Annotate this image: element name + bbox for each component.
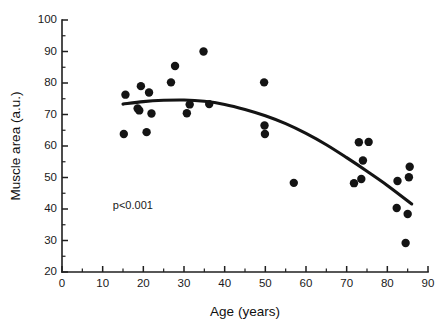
- y-tick-label: 20: [44, 265, 57, 277]
- data-point: [167, 78, 175, 86]
- data-point: [147, 109, 155, 117]
- plot-canvas: 2030405060708090100 0102030405060708090 …: [0, 0, 445, 326]
- data-point: [171, 62, 179, 70]
- x-tick-label: 60: [300, 277, 313, 289]
- x-tick-label: 50: [259, 277, 272, 289]
- p-value-annotation: p<0.001: [113, 199, 153, 211]
- data-point: [261, 130, 269, 138]
- x-tick-label: 90: [422, 277, 435, 289]
- data-point: [359, 156, 367, 164]
- x-tick-label: 20: [137, 277, 150, 289]
- data-point: [406, 163, 414, 171]
- data-point: [137, 82, 145, 90]
- data-point: [405, 173, 413, 181]
- y-tick-label: 80: [44, 76, 57, 88]
- y-tick-label: 70: [44, 108, 57, 120]
- data-point: [364, 138, 372, 146]
- x-axis-title: Age (years): [210, 304, 280, 319]
- x-tick-label: 40: [218, 277, 231, 289]
- y-axis-major-ticks: [62, 20, 68, 272]
- x-tick-label: 30: [178, 277, 191, 289]
- x-axis-tick-labels: 0102030405060708090: [59, 277, 435, 289]
- x-axis-group: 0102030405060708090: [59, 266, 435, 289]
- data-point: [357, 175, 365, 183]
- data-point: [290, 179, 298, 187]
- data-point: [403, 210, 411, 218]
- y-tick-label: 40: [44, 202, 57, 214]
- x-tick-label: 0: [59, 277, 65, 289]
- data-point: [205, 100, 213, 108]
- data-points-group: [120, 47, 414, 247]
- y-tick-label: 30: [44, 234, 57, 246]
- y-axis-group: 2030405060708090100: [38, 13, 68, 277]
- data-point: [260, 121, 268, 129]
- data-point: [199, 47, 207, 55]
- x-tick-label: 70: [340, 277, 353, 289]
- data-point: [121, 90, 129, 98]
- y-tick-label: 100: [38, 13, 57, 25]
- data-point: [120, 130, 128, 138]
- data-point: [135, 106, 143, 114]
- y-tick-label: 50: [44, 171, 57, 183]
- scatter-plot-figure: 2030405060708090100 0102030405060708090 …: [0, 0, 445, 326]
- y-tick-label: 60: [44, 139, 57, 151]
- x-tick-label: 80: [381, 277, 394, 289]
- regression-fit-curve: [123, 100, 412, 204]
- data-point: [393, 177, 401, 185]
- y-axis-title: Muscle area (a.u.): [8, 92, 23, 201]
- data-point: [401, 239, 409, 247]
- data-point: [355, 138, 363, 146]
- data-point: [183, 109, 191, 117]
- y-tick-label: 90: [44, 45, 57, 57]
- y-axis-tick-labels: 2030405060708090100: [38, 13, 57, 277]
- data-point: [145, 88, 153, 96]
- data-point: [350, 179, 358, 187]
- chart-annotations: p<0.001: [113, 199, 153, 211]
- data-point: [392, 204, 400, 212]
- data-point: [142, 128, 150, 136]
- data-point: [185, 100, 193, 108]
- x-tick-label: 10: [96, 277, 109, 289]
- data-point: [260, 78, 268, 86]
